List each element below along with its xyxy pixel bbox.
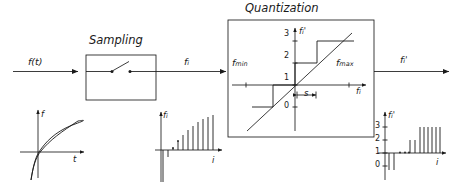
quantizer-xaxis-label: fi (356, 87, 361, 96)
quantizer-staircase (252, 41, 354, 107)
quantizer-tick-3: 3 (284, 30, 289, 38)
input-signal-label: f(t) (28, 57, 42, 67)
sampled-signal-plot-axes (155, 112, 222, 182)
sampled-signal-stems (163, 115, 213, 182)
quantized-plot-ylabel: fi' (388, 111, 395, 120)
continuous-plot-ylabel: f (41, 110, 44, 119)
quantizer-tick-2: 2 (284, 52, 289, 60)
sampled-plot-xlabel: i (212, 156, 214, 165)
quantizer-yaxis-label: fi' (299, 27, 306, 36)
continuous-signal-curve (31, 120, 83, 180)
quantized-tick-3: 3 (375, 122, 380, 130)
quantized-signal-stems (389, 127, 440, 170)
output-signal-label: fi' (400, 55, 407, 65)
quantized-tick-0: 0 (375, 161, 380, 169)
sampling-block-title: Sampling (89, 35, 143, 47)
quantization-block-title: Quantization (245, 3, 319, 15)
diagram-vector-layer (0, 0, 456, 186)
sampled-signal-label: fi (184, 57, 189, 67)
continuous-plot-xlabel: t (73, 155, 76, 164)
quantization-block-outline (228, 20, 374, 137)
diagram-canvas: Sampling Quantization f(t) fi fi' fmin f… (0, 0, 456, 186)
quantizer-transfer-axes (232, 28, 366, 131)
quantized-plot-xlabel: i (436, 158, 438, 167)
continuous-signal-plot-axes (20, 110, 84, 178)
fmin-label: fmin (232, 58, 248, 68)
quantizer-tick-0: 0 (284, 102, 289, 110)
switch-icon (86, 62, 156, 74)
quantized-tick-2: 2 (375, 135, 380, 143)
step-size-label: s (304, 89, 308, 98)
fmax-label: fmax (336, 58, 354, 68)
quantized-tick-1: 1 (375, 148, 380, 156)
quantizer-tick-1: 1 (284, 74, 289, 82)
sampled-plot-ylabel: fi (163, 111, 168, 120)
quantizer-ideal-line (247, 33, 352, 131)
sampling-block-outline (86, 55, 156, 100)
